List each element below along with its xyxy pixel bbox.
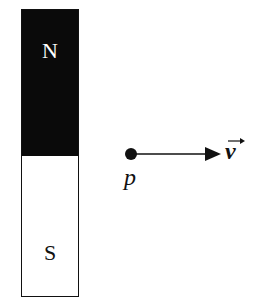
velocity-diagram — [0, 0, 263, 307]
velocity-label: v — [225, 138, 236, 165]
velocity-arrow-head-icon — [205, 147, 221, 161]
particle-label: p — [124, 164, 136, 191]
vector-arrow-icon — [240, 138, 245, 144]
